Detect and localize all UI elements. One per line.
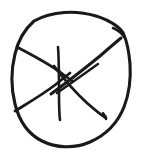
- sketch-drawing: [0, 0, 146, 160]
- vertical-line-stroke: [58, 47, 60, 120]
- paper-background: [0, 0, 146, 160]
- sketch-canvas: [0, 0, 146, 160]
